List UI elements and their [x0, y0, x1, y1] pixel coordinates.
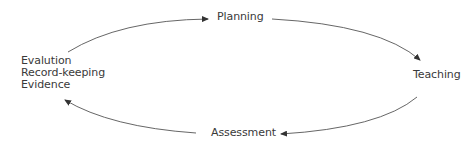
node-teaching: Teaching: [413, 69, 461, 81]
arrow-teaching-to-assessment: [281, 97, 417, 134]
node-planning: Planning: [217, 11, 264, 23]
node-evaluation: Evalution Record-keeping Evidence: [21, 55, 105, 91]
node-evaluation-line-3: Evidence: [21, 79, 105, 91]
arrow-planning-to-teaching: [272, 19, 420, 60]
arrow-evaluation-to-planning: [68, 19, 208, 52]
node-assessment: Assessment: [211, 127, 276, 139]
arrow-assessment-to-evaluation: [65, 100, 196, 133]
